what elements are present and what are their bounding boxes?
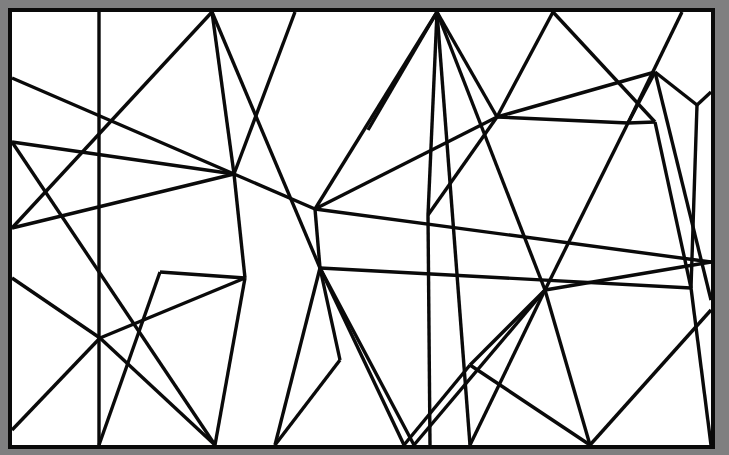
line-segment xyxy=(428,215,430,445)
artwork-frame xyxy=(10,10,713,447)
artwork-canvas xyxy=(0,0,729,455)
line-segment xyxy=(628,122,655,123)
line-art-svg xyxy=(0,0,729,455)
